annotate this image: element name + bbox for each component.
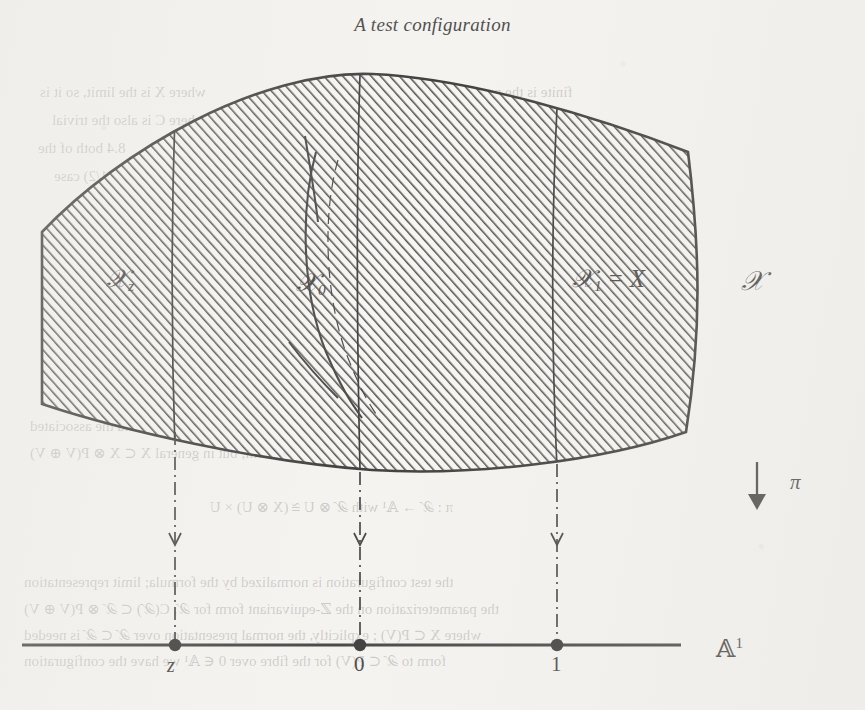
base-point-z bbox=[169, 639, 181, 651]
fiber-label-0-symbol: 𝒳 bbox=[296, 268, 318, 297]
test-configuration-figure bbox=[0, 0, 865, 710]
projection-map-label: π bbox=[790, 470, 801, 495]
fiber-label-1-equals: = bbox=[609, 265, 623, 292]
fiber-label-1-symbol: 𝒳 bbox=[572, 264, 594, 293]
base-point-label-0: 0 bbox=[354, 652, 365, 677]
fiber-label-z-subscript: z bbox=[128, 277, 134, 294]
base-point-label-1: 1 bbox=[551, 652, 562, 677]
fiber-label-0: 𝒳0 bbox=[296, 268, 326, 299]
base-point-0 bbox=[354, 639, 366, 651]
total-space-label: 𝒳 bbox=[741, 265, 764, 297]
fiber-label-0-subscript: 0 bbox=[318, 281, 326, 298]
projection-arrow bbox=[748, 462, 766, 510]
figure-title: A test configuration bbox=[0, 14, 865, 36]
base-space-exponent: 1 bbox=[735, 635, 743, 651]
base-space-label: 𝔸1 bbox=[716, 634, 743, 663]
base-point-label-z: z bbox=[167, 654, 175, 677]
projection-guide-arrowheads bbox=[169, 533, 563, 545]
fiber-label-1: 𝒳1=X bbox=[572, 264, 645, 295]
base-point-1 bbox=[551, 639, 563, 651]
fiber-label-z-symbol: 𝒳 bbox=[106, 264, 128, 293]
base-space-symbol: 𝔸 bbox=[716, 635, 735, 662]
fiber-label-z: 𝒳z bbox=[106, 264, 134, 295]
base-line-A1 bbox=[22, 639, 681, 651]
fiber-label-1-identification: X bbox=[630, 265, 645, 292]
fiber-label-1-subscript: 1 bbox=[594, 277, 602, 294]
